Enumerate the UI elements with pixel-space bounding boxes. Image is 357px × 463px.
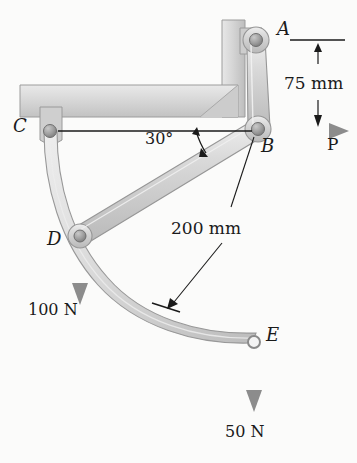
force-arrow-50N — [246, 342, 262, 412]
angle-label-30deg: 30° — [145, 131, 173, 147]
pin-joint-a — [250, 34, 263, 47]
mechanics-figure: A B C D E 75 mm 200 mm 30° P 100 N 50 N — [0, 0, 357, 463]
pin-joint-c — [44, 125, 57, 138]
force-label-P: P — [327, 136, 338, 153]
leader-line-200mm-lower — [152, 243, 222, 312]
point-label-c: C — [13, 117, 27, 135]
point-label-d: D — [47, 230, 61, 248]
force-label-100N: 100 N — [28, 302, 78, 318]
force-label-50N: 50 N — [225, 424, 264, 440]
dimension-label-75mm: 75 mm — [284, 75, 343, 92]
point-label-b: B — [261, 137, 274, 155]
point-label-a: A — [277, 20, 290, 38]
dimension-label-200mm: 200 mm — [171, 220, 241, 237]
point-label-e: E — [266, 326, 279, 344]
